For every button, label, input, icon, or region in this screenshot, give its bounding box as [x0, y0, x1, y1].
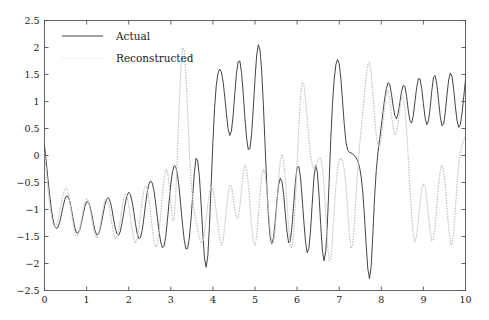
y-tick-label: 0	[33, 150, 39, 161]
y-tick-label: −1	[25, 204, 39, 215]
x-tick-label: 9	[420, 294, 426, 305]
y-tick-label: −2.5	[16, 285, 39, 296]
y-tick-label: 1	[33, 96, 39, 107]
x-tick-label: 6	[294, 294, 300, 305]
x-tick-label: 3	[168, 294, 174, 305]
y-tick-label: 1.5	[24, 69, 39, 80]
y-tick-label: 2	[33, 42, 39, 53]
x-tick-label: 1	[84, 294, 90, 305]
x-tick-label: 8	[378, 294, 384, 305]
x-tick-label: 2	[126, 294, 132, 305]
legend-label-reconstructed: Reconstructed	[116, 52, 194, 64]
y-tick-label: 0.5	[24, 123, 39, 134]
figure-background	[0, 0, 489, 320]
chart-canvas: 012345678910 2.521.510.50−0.5−1−1.5−2−2.…	[0, 0, 489, 320]
y-tick-label: −1.5	[16, 231, 39, 242]
x-tick-label: 7	[336, 294, 342, 305]
legend-label-actual: Actual	[115, 30, 151, 42]
figure-container: 012345678910 2.521.510.50−0.5−1−1.5−2−2.…	[0, 0, 489, 320]
y-tick-label: −2	[25, 258, 39, 269]
x-tick-label: 10	[459, 294, 471, 305]
y-tick-label: −0.5	[16, 177, 39, 188]
x-tick-label: 4	[210, 294, 216, 305]
x-tick-label: 0	[41, 294, 47, 305]
y-tick-label: 2.5	[24, 15, 39, 26]
x-tick-label: 5	[252, 294, 258, 305]
